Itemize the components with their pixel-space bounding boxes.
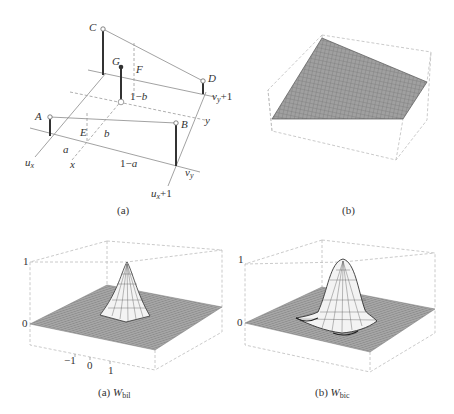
label-vy-plus-1: vy+1 <box>212 90 232 104</box>
z-tick-0: 0 <box>22 317 28 329</box>
label-F: F <box>135 63 143 75</box>
label-C: C <box>89 21 97 33</box>
wbil-kernel-plot: 1 0 −1 0 1 (a) Wbil <box>22 241 222 400</box>
caption-b: (b) <box>342 204 355 217</box>
label-ux: ux <box>25 156 35 170</box>
label-b: b <box>104 127 110 139</box>
caption-c: (a) Wbil <box>98 386 131 400</box>
caption-d: (b) Wbic <box>315 386 350 400</box>
label-a: a <box>63 143 69 155</box>
label-1-minus-a: 1−a <box>120 157 138 169</box>
wbic-kernel-plot: 1 0 (b) Wbic <box>237 240 435 400</box>
z-tick-0: 0 <box>237 316 243 328</box>
label-D: D <box>207 72 216 84</box>
label-vy: vy <box>185 166 194 180</box>
point-A <box>48 115 52 119</box>
bilinear-surface-plot: (b) <box>268 35 431 217</box>
x-tick-0: 0 <box>87 359 93 371</box>
caption-a: (a) <box>117 204 130 217</box>
line-vy <box>30 128 200 172</box>
z-tick-1: 1 <box>238 253 244 265</box>
label-1-minus-b: 1−b <box>130 90 148 102</box>
line-AB <box>50 117 176 123</box>
label-ux-plus-1: ux+1 <box>151 187 172 201</box>
z-tick-1: 1 <box>23 255 29 267</box>
point-B <box>174 121 178 125</box>
label-B: B <box>181 118 188 130</box>
x-tick-neg1: −1 <box>64 354 76 366</box>
label-y: y <box>204 114 210 126</box>
label-x: x <box>69 158 75 170</box>
line-ux <box>35 73 106 157</box>
label-A: A <box>34 110 42 122</box>
x-tick-1: 1 <box>108 364 114 376</box>
bilinear-interpolation-diagram: A B C D E F G b 1−b a 1−a x y ux ux+1 vy… <box>25 21 232 217</box>
line-vy-plus-1 <box>88 70 215 97</box>
surface-mesh <box>272 38 427 119</box>
point-D <box>201 79 205 83</box>
point-G-base <box>118 99 124 105</box>
label-G: G <box>112 55 120 67</box>
label-E: E <box>79 126 87 138</box>
figure-canvas: A B C D E F G b 1−b a 1−a x y ux ux+1 vy… <box>0 0 454 414</box>
point-C <box>101 27 105 31</box>
